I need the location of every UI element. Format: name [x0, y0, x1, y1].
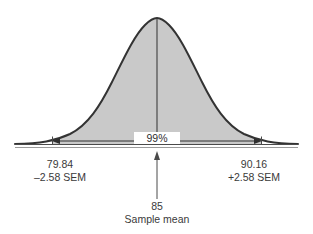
lower-bound-value: 79.84: [12, 158, 108, 171]
upper-bound-sem: +2.58 SEM: [206, 171, 302, 184]
lower-bound-sem: –2.58 SEM: [12, 171, 108, 184]
mean-callout-arrow-head: [154, 151, 160, 160]
distribution-chart-svg: [0, 0, 313, 234]
sample-mean-value: 85: [97, 200, 217, 213]
sample-mean-caption: Sample mean: [97, 213, 217, 226]
normal-curve-figure: 99% 79.84 –2.58 SEM 90.16 +2.58 SEM 85 S…: [0, 0, 313, 234]
upper-bound-value: 90.16: [206, 158, 302, 171]
confidence-level-label: 99%: [134, 132, 180, 144]
sample-mean-label: 85 Sample mean: [97, 200, 217, 227]
lower-bound-label: 79.84 –2.58 SEM: [12, 158, 108, 185]
upper-bound-label: 90.16 +2.58 SEM: [206, 158, 302, 185]
